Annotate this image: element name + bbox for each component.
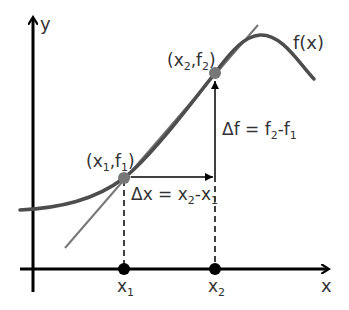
- x1-axis-marker: [118, 263, 130, 275]
- x-axis-label: x: [321, 275, 332, 296]
- x2-axis-label: x2: [208, 276, 225, 299]
- delta-x-label: Δx = x2-x1: [131, 184, 218, 207]
- derivative-diagram: y x f(x) (x2,f2) (x1,f1) Δf = f2-f1 Δx =…: [0, 0, 349, 310]
- point-1-label: (x1,f1): [86, 151, 135, 174]
- y-axis-label: y: [40, 13, 51, 34]
- point-2-label: (x2,f2): [167, 50, 216, 73]
- delta-f-label: Δf = f2-f1: [222, 119, 297, 142]
- x1-axis-label: x1: [117, 276, 134, 299]
- x2-axis-marker: [209, 263, 221, 275]
- function-label: f(x): [293, 32, 324, 53]
